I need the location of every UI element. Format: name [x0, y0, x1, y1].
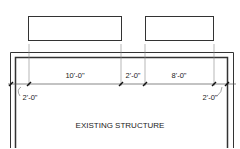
right-box: [146, 17, 214, 41]
dim-8ft: 8'-0": [172, 71, 187, 80]
left-leader: [18, 87, 21, 96]
dim-2ft-left: 2'-0": [23, 93, 38, 102]
right-leader: [217, 87, 222, 96]
existing-structure-label: EXISTING STRUCTURE: [76, 121, 165, 130]
dim-2ft-center: 2'-0": [126, 71, 141, 80]
dim-2ft-right: 2'-0": [203, 93, 218, 102]
inner-wall: [16, 58, 228, 149]
outer-wall: [11, 53, 234, 149]
dim-10ft: 10'-0": [65, 71, 84, 80]
left-box: [29, 17, 122, 41]
plan-drawing: 10'-0" 2'-0" 8'-0" 2'-0" 2'-0" EXISTING …: [0, 0, 240, 148]
